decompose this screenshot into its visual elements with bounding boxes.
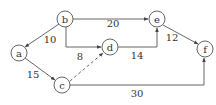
weight-label-d-e: 14 (131, 50, 144, 61)
node-d: d (102, 39, 118, 55)
node-b: b (57, 11, 73, 27)
node-label-e: e (154, 14, 160, 25)
edge-c-d-dashed (70, 53, 103, 81)
weight-label-c-f: 30 (131, 88, 144, 99)
edge-d-e (118, 28, 157, 47)
weight-label-e-f: 12 (166, 32, 179, 43)
node-label-c: c (59, 80, 65, 91)
weight-label-b-d: 8 (77, 51, 83, 62)
node-label-a: a (16, 48, 22, 59)
weight-label-b-e: 20 (107, 18, 120, 29)
weight-label-a-c: 15 (27, 69, 40, 80)
node-e: e (149, 11, 165, 27)
node-c: c (54, 77, 70, 93)
graph-canvas: 10 20 8 15 14 12 30 a b c d e f (0, 0, 216, 105)
weight-label-b-a: 10 (44, 34, 57, 45)
node-label-b: b (62, 14, 68, 25)
edge-c-f (70, 58, 204, 85)
node-label-d: d (107, 42, 114, 53)
edge-b-d (66, 27, 101, 47)
node-a: a (11, 45, 27, 61)
node-f: f (197, 41, 213, 57)
